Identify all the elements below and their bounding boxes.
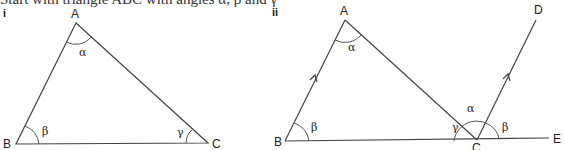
angle-beta-c-label: β — [502, 121, 508, 134]
vertex-c-label: C — [472, 141, 481, 150]
parallel-arrow-ab-icon — [310, 75, 317, 82]
angle-arc-c — [186, 129, 193, 143]
angle-arc-b — [25, 126, 39, 144]
angle-alpha-c-label: α — [467, 102, 475, 115]
vertex-d-label: D — [534, 3, 543, 17]
vertex-b-label: B — [3, 137, 11, 150]
vertex-e-label: E — [553, 132, 561, 146]
vertex-b-label: B — [274, 135, 282, 149]
angle-alpha-label: α — [79, 46, 87, 59]
vertex-c-label: C — [212, 137, 221, 150]
figure-ii-numeral: ii — [272, 6, 278, 18]
angle-beta-label: β — [311, 121, 317, 134]
angle-arc-c — [454, 121, 499, 141]
vertex-a-label: A — [71, 7, 79, 21]
line-bce — [285, 138, 549, 141]
angle-beta-label: β — [42, 125, 48, 138]
vertex-a-label: A — [340, 4, 348, 18]
angle-alpha-label: α — [348, 41, 356, 54]
figure-i: i A B C α β γ — [3, 7, 221, 150]
angle-gamma-label: γ — [177, 126, 184, 139]
figure-i-numeral: i — [3, 7, 6, 19]
figure-ii: ii A B C D E α β γ α β — [272, 3, 561, 150]
angle-arc-b — [294, 123, 309, 141]
angle-arc-a — [66, 37, 91, 44]
geometry-figures: i A B C α β γ ii A B C D E α β γ α β — [0, 0, 564, 150]
angle-gamma-label: γ — [452, 121, 459, 134]
